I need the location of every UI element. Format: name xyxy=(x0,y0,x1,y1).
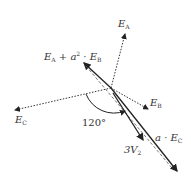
label-angle: 120° xyxy=(82,117,106,128)
vector-ec xyxy=(15,88,111,110)
label-3v2: 3V2 xyxy=(124,144,142,156)
phasor-diagram: EA EB EC EA + a2 · EB a · EC 3V2 120° xyxy=(0,0,191,189)
label-ec: EC xyxy=(14,114,27,126)
vector-3v2 xyxy=(113,93,143,140)
vector-a-ec xyxy=(111,88,177,171)
label-ea-plus-a2eb: EA + a2 · EB xyxy=(43,50,102,63)
vector-ea-plus-a2eb xyxy=(84,63,111,88)
label-a-ec: a · EC xyxy=(155,132,183,144)
label-eb: EB xyxy=(149,97,162,109)
vector-ea xyxy=(111,34,125,88)
label-ea: EA xyxy=(117,18,130,30)
